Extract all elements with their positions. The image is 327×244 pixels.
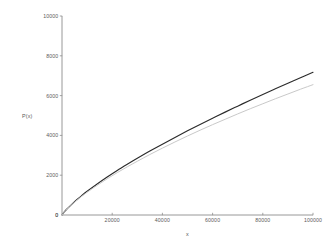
- series-line-lower-curve: [62, 85, 313, 215]
- chart-plot-area: 0200040006000800010000 02000040000600008…: [0, 0, 327, 244]
- y-tick-label: 6000: [46, 93, 58, 99]
- x-tick-label: 20000: [105, 217, 120, 223]
- y-axis: 0200040006000800010000: [43, 13, 62, 218]
- series-line-upper-curve: [62, 72, 313, 215]
- x-axis: 020000400006000080000100000: [55, 212, 322, 223]
- y-tick-label: 2000: [46, 172, 58, 178]
- x-tick-label: 60000: [205, 217, 220, 223]
- x-axis-title: x: [186, 231, 189, 237]
- chart-series-group: [62, 72, 313, 215]
- x-tick-label: 100000: [304, 217, 322, 223]
- y-axis-title: P(x): [22, 113, 33, 119]
- y-tick-label: 10000: [43, 13, 58, 19]
- x-tick-label: 0: [55, 212, 58, 218]
- x-tick-label: 80000: [255, 217, 270, 223]
- y-tick-label: 8000: [46, 53, 58, 59]
- y-tick-label: 4000: [46, 132, 58, 138]
- line-chart: 0200040006000800010000 02000040000600008…: [0, 0, 327, 244]
- x-tick-label: 40000: [155, 217, 170, 223]
